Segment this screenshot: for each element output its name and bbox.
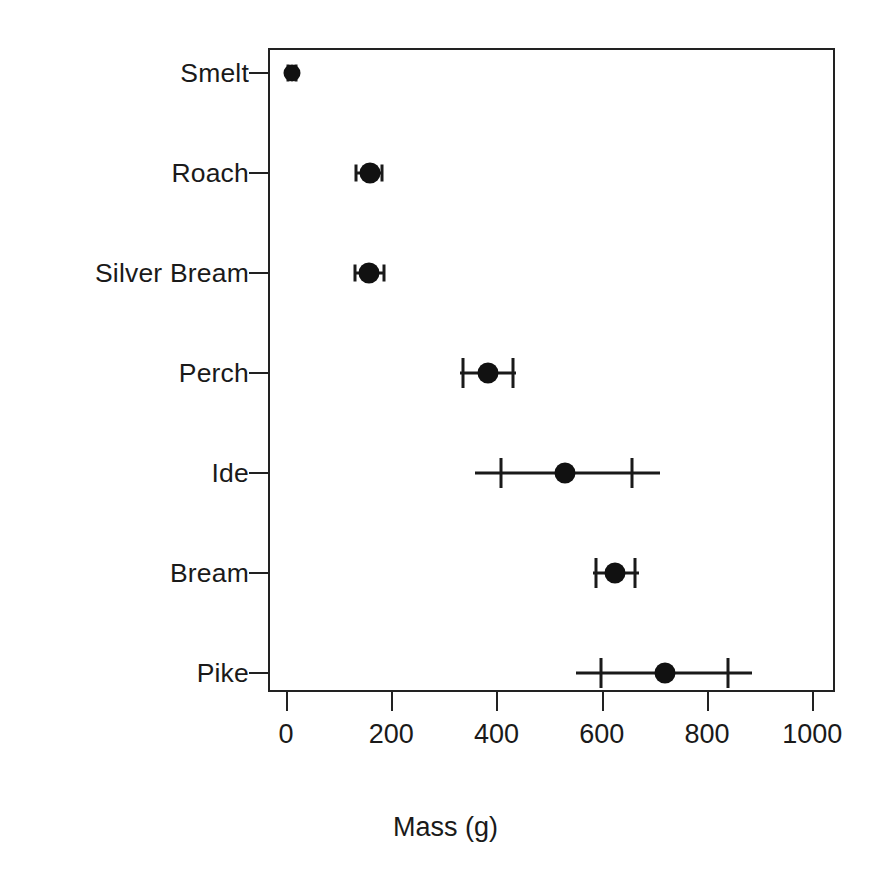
error-bar-cap-low-ide <box>500 458 503 488</box>
error-bar-cap-low-silver-bream <box>353 265 356 282</box>
data-point-silver-bream <box>359 263 380 284</box>
data-point-roach <box>360 163 381 184</box>
x-tick-label-0: 0 <box>278 719 293 750</box>
y-axis-label-bream: Bream <box>170 558 249 589</box>
y-tick-roach <box>249 172 268 174</box>
y-axis-category-labels: SmeltRoachSilver BreamPerchIdeBreamPike <box>0 0 249 893</box>
y-tick-pike <box>249 672 268 674</box>
data-point-smelt <box>283 65 300 82</box>
x-tick-label-1000: 1000 <box>782 719 842 750</box>
y-tick-perch <box>249 372 268 374</box>
mass-by-species-chart: SmeltRoachSilver BreamPerchIdeBreamPike … <box>0 0 891 893</box>
data-point-pike <box>654 663 675 684</box>
x-tick-200 <box>391 692 393 711</box>
x-tick-label-600: 600 <box>579 719 624 750</box>
x-tick-600 <box>602 692 604 711</box>
x-tick-1000 <box>812 692 814 711</box>
error-bar-cap-high-perch <box>511 358 514 388</box>
x-tick-800 <box>707 692 709 711</box>
x-tick-label-200: 200 <box>369 719 414 750</box>
error-bar-cap-high-silver-bream <box>382 265 385 282</box>
error-bar-cap-high-pike <box>727 658 730 688</box>
y-axis-label-perch: Perch <box>179 358 249 389</box>
y-axis-label-ide: Ide <box>212 458 249 489</box>
data-point-bream <box>605 563 626 584</box>
y-axis-label-pike: Pike <box>197 658 249 689</box>
error-bar-cap-high-bream <box>633 558 636 588</box>
y-axis-label-silver-bream: Silver Bream <box>95 258 249 289</box>
plot-area <box>268 48 835 692</box>
error-bar-cap-low-bream <box>594 558 597 588</box>
x-tick-label-400: 400 <box>474 719 519 750</box>
error-bar-cap-high-ide <box>631 458 634 488</box>
x-tick-label-800: 800 <box>684 719 729 750</box>
y-tick-bream <box>249 572 268 574</box>
x-axis-title: Mass (g) <box>0 812 891 843</box>
error-bar-cap-low-pike <box>600 658 603 688</box>
data-point-ide <box>554 463 575 484</box>
data-point-perch <box>478 363 499 384</box>
y-axis-label-smelt: Smelt <box>180 58 249 89</box>
error-bar-cap-high-roach <box>381 165 384 182</box>
error-bar-cap-low-roach <box>354 165 357 182</box>
y-tick-smelt <box>249 72 268 74</box>
x-tick-0 <box>286 692 288 711</box>
y-tick-ide <box>249 472 268 474</box>
error-bar-cap-low-perch <box>462 358 465 388</box>
y-axis-label-roach: Roach <box>171 158 249 189</box>
y-tick-silver-bream <box>249 272 268 274</box>
x-tick-400 <box>496 692 498 711</box>
